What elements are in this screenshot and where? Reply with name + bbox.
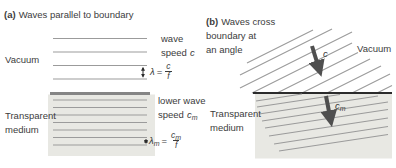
equals-sign: = — [157, 66, 163, 77]
diagram-canvas — [0, 0, 396, 168]
panel-b-title-line2: boundary at — [206, 30, 256, 41]
refracted-speed-label: cm — [335, 100, 346, 111]
panel-a-title: (a)Waves parallel to boundary — [4, 9, 133, 20]
wave-speed-symbol: c — [190, 47, 195, 58]
lower-speed-symbol-subscript: m — [192, 114, 198, 121]
wavelength-m-formula: λm = cm f — [149, 131, 183, 150]
wavefront-line — [247, 30, 313, 63]
lambda-m-subscript: m — [154, 140, 160, 147]
wavefront-line — [252, 43, 352, 93]
incident-speed-label: c — [323, 48, 328, 59]
vacuum-label-a: Vacuum — [5, 54, 39, 65]
lower-speed-word: speed — [158, 109, 184, 120]
wavefront-line — [240, 32, 352, 88]
medium-label-a-line2: medium — [5, 124, 39, 135]
fraction-cm-over-f: cm f — [169, 131, 183, 150]
panel-b-title-line3: an angle — [206, 44, 242, 55]
vacuum-label-b: Vacuum — [357, 43, 391, 54]
lower-speed-caption-line1: lower wave — [158, 95, 206, 106]
lower-speed-symbol: cm — [187, 109, 198, 120]
medium-label-b-line2: medium — [210, 122, 244, 133]
wavelength-formula: λ = c f — [150, 62, 173, 81]
wave-speed-caption-line2: speedc — [161, 47, 195, 58]
panel-a-tag: (a) — [4, 9, 16, 20]
panel-b-title-text: Waves cross — [221, 16, 275, 27]
lower-speed-caption-line2: speedcm — [158, 109, 197, 120]
panel-b-tag: (b) — [206, 16, 218, 27]
figure-wave-refraction: (a)Waves parallel to boundary Vacuum Tra… — [0, 0, 396, 168]
wave-speed-word: speed — [161, 47, 187, 58]
fraction-denominator: f — [173, 140, 179, 150]
fraction-c-over-f: c f — [164, 62, 172, 81]
wavefront-line — [377, 86, 392, 94]
panel-a-graphics — [48, 39, 155, 157]
wavefront-line — [352, 74, 390, 93]
fraction-numerator: c — [164, 62, 172, 71]
refracted-speed-subscript: m — [340, 105, 346, 112]
equals-sign: = — [162, 135, 168, 146]
lambda-m-symbol: λm — [149, 135, 160, 146]
transparent-medium-region-a — [48, 95, 155, 157]
wavefront-line — [327, 66, 381, 93]
medium-label-a-line1: Transparent — [5, 110, 56, 121]
fraction-denominator: f — [165, 71, 171, 81]
medium-label-b-line1: Transparent — [210, 108, 261, 119]
panel-b-title-line1: (b)Waves cross — [206, 16, 275, 27]
fraction-numerator: cm — [169, 131, 183, 140]
wave-speed-caption-line1: wave — [161, 33, 183, 44]
lambda-symbol: λ — [150, 66, 155, 77]
panel-a-title-text: Waves parallel to boundary — [19, 9, 134, 20]
